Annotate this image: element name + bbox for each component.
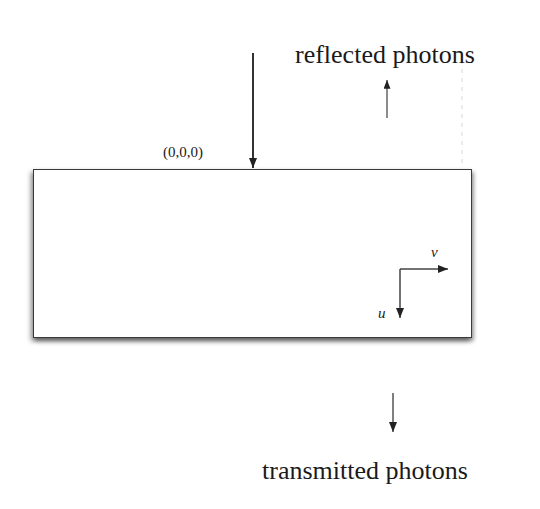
u-axis-label: u	[378, 306, 386, 321]
transmitted-photons-label: transmitted photons	[262, 458, 468, 484]
diagram-canvas: reflected photons (0,0,0) v u transmitte…	[0, 0, 540, 509]
reflected-photons-label: reflected photons	[295, 42, 475, 68]
origin-label: (0,0,0)	[163, 145, 203, 160]
v-axis-label: v	[431, 245, 438, 260]
medium-slab	[33, 169, 472, 338]
